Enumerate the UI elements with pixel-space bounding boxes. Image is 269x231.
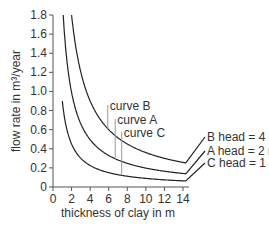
y-tick-label: 1.8 [30,8,47,22]
x-tick-label: 14 [176,192,190,206]
annotation-label: curve B [110,99,151,113]
series-label: B head = 4 m [207,130,269,144]
y-tick-label: 1.6 [30,27,47,41]
y-tick-label: 0.2 [30,161,47,175]
chart: 00.20.40.60.81.01.21.41.61.802468101214t… [0,0,269,231]
x-tick-label: 8 [124,192,131,206]
y-tick-label: 1.2 [30,65,47,79]
x-tick-label: 0 [50,192,57,206]
y-axis-title: flow rate in m³/year [9,50,23,152]
x-tick-label: 4 [87,192,94,206]
y-tick-label: 0.6 [30,123,47,137]
x-tick-label: 10 [139,192,153,206]
y-tick-label: 0.4 [30,142,47,156]
y-tick-label: 0 [40,180,47,194]
x-tick-label: 2 [68,192,75,206]
x-axis-title: thickness of clay in m [61,206,175,220]
x-tick-label: 6 [105,192,112,206]
y-tick-label: 0.8 [30,104,47,118]
y-tick-label: 1.0 [30,84,47,98]
annotation-label: curve A [117,113,157,127]
x-tick-label: 12 [158,192,172,206]
curve-a [63,15,205,174]
annotation-label: curve C [124,126,166,140]
series-label: C head = 1 m [207,156,269,170]
y-tick-label: 1.4 [30,46,47,60]
